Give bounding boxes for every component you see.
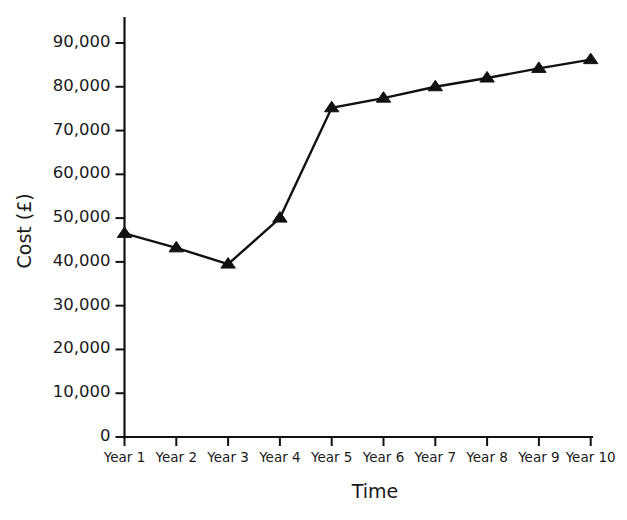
x-tick-marks	[125, 437, 591, 446]
y-tick-label: 70,000	[53, 122, 111, 139]
y-tick-label: 50,000	[53, 209, 111, 226]
y-tick-label: 40,000	[53, 253, 111, 270]
y-tick-label: 80,000	[53, 78, 111, 95]
y-tick-label: 0	[100, 428, 111, 445]
y-axis-label: Cost (£)	[15, 208, 34, 268]
y-tick-label: 20,000	[53, 340, 111, 357]
x-axis-label: Time	[280, 482, 470, 501]
x-tick-label: Year 10	[554, 451, 627, 465]
data-point-marker	[273, 212, 287, 223]
y-tick-label: 30,000	[53, 297, 111, 314]
line-chart: Cost (£) Time 010,00020,00030,00040,0005…	[0, 0, 627, 520]
cost-series-line	[125, 60, 591, 264]
data-point-marker	[117, 227, 131, 238]
axes-group	[125, 18, 593, 438]
data-point-marker	[584, 53, 598, 64]
cost-series-markers	[117, 53, 598, 268]
y-tick-label: 90,000	[53, 34, 111, 51]
y-tick-label: 10,000	[53, 384, 111, 401]
y-tick-marks	[116, 43, 125, 437]
y-tick-label: 60,000	[53, 165, 111, 182]
